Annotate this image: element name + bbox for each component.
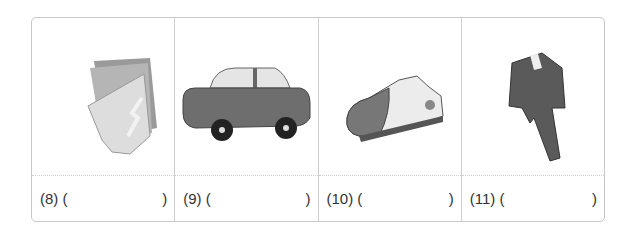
item-10: (10) () bbox=[318, 18, 461, 221]
sneaker-icon bbox=[319, 18, 461, 176]
item-9-label: (9) ( bbox=[183, 190, 211, 207]
item-9: (9) () bbox=[174, 18, 317, 221]
suit-icon bbox=[462, 18, 604, 176]
picture-answer-table: (8) () (9) () (10) () bbox=[31, 17, 605, 222]
item-11-label: (11) ( bbox=[470, 190, 505, 207]
item-10-label: (10) ( bbox=[327, 190, 363, 207]
item-11: (11) () bbox=[461, 18, 604, 221]
newspaper-icon bbox=[32, 18, 174, 176]
item-8: (8) () bbox=[32, 18, 174, 221]
item-8-label: (8) ( bbox=[40, 190, 68, 207]
car-icon bbox=[175, 18, 317, 176]
